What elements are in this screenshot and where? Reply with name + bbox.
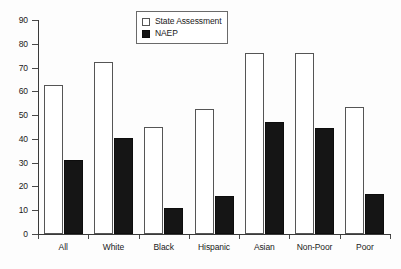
y-axis-tick-label: 10	[4, 206, 28, 215]
bar-poor-state-assessment	[345, 107, 364, 234]
x-axis-label-white: White	[88, 243, 138, 252]
legend-swatch-filled-square-icon	[142, 30, 150, 38]
y-axis-tick-label: 30	[4, 159, 28, 168]
bar-white-state-assessment	[94, 62, 113, 234]
bar-asian-state-assessment	[245, 53, 264, 234]
bar-non-poor-state-assessment	[295, 53, 314, 234]
x-axis-label-non-poor: Non-Poor	[289, 243, 339, 252]
x-axis-label-hispanic: Hispanic	[189, 243, 239, 252]
x-axis-tick	[88, 235, 89, 239]
bar-poor-naep	[365, 194, 384, 234]
x-axis-label-asian: Asian	[239, 243, 289, 252]
legend-item-naep: NAEP	[142, 28, 221, 39]
bar-white-naep	[114, 138, 133, 234]
bar-hispanic-state-assessment	[195, 109, 214, 234]
legend-swatch-open-square-icon	[142, 18, 150, 26]
y-axis-tick-label: 60	[4, 87, 28, 96]
legend-label-state-assessment: State Assessment	[155, 17, 221, 26]
y-axis-tick-label: 40	[4, 135, 28, 144]
bar-black-state-assessment	[144, 127, 163, 234]
y-axis-tick-label: 0	[4, 230, 28, 239]
bar-chart-figure: 0102030405060708090 AllWhiteBlackHispani…	[0, 0, 401, 269]
legend-item-state-assessment: State Assessment	[142, 16, 221, 27]
y-axis-tick-label: 70	[4, 64, 28, 73]
y-axis-tick-label: 50	[4, 111, 28, 120]
x-axis-label-poor: Poor	[340, 243, 390, 252]
x-axis-tick	[390, 235, 391, 239]
x-axis-tick	[239, 235, 240, 239]
x-axis-tick	[289, 235, 290, 239]
legend-label-naep: NAEP	[155, 29, 178, 38]
bar-all-naep	[64, 160, 83, 234]
chart-legend: State Assessment NAEP	[136, 11, 228, 44]
y-axis-tick-label: 90	[4, 16, 28, 25]
bar-hispanic-naep	[215, 196, 234, 234]
x-axis-label-black: Black	[139, 243, 189, 252]
bar-all-state-assessment	[44, 85, 63, 234]
bar-black-naep	[164, 208, 183, 234]
x-axis-line	[38, 234, 391, 235]
bar-non-poor-naep	[315, 128, 334, 234]
y-axis-tick-label: 80	[4, 40, 28, 49]
x-axis-tick	[139, 235, 140, 239]
x-axis-tick	[38, 235, 39, 239]
plot-area	[38, 20, 390, 234]
x-axis-tick	[340, 235, 341, 239]
y-axis-tick-label: 20	[4, 182, 28, 191]
x-axis-tick	[189, 235, 190, 239]
x-axis-label-all: All	[38, 243, 88, 252]
bar-asian-naep	[265, 122, 284, 234]
